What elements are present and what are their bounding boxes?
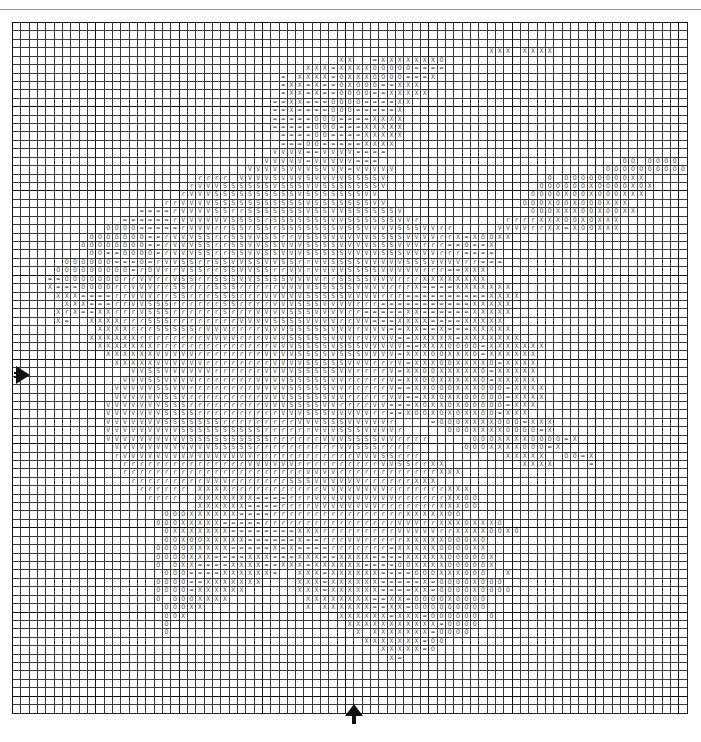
stitch-cell: X (395, 131, 403, 139)
stitch-cell (595, 460, 603, 468)
stitch-cell (570, 317, 578, 325)
stitch-cell: X (337, 64, 345, 72)
stitch-cell (578, 435, 586, 443)
stitch-cell (520, 190, 528, 198)
stitch-cell: = (79, 308, 87, 316)
stitch-cell (287, 670, 295, 678)
stitch-cell (637, 39, 645, 47)
stitch-cell (553, 569, 561, 577)
stitch-cell (62, 670, 70, 678)
stitch-cell: S (328, 224, 336, 232)
stitch-cell (487, 595, 495, 603)
stitch-cell (62, 81, 70, 89)
stitch-cell: = (453, 300, 461, 308)
stitch-cell (645, 696, 653, 704)
stitch-cell (495, 115, 503, 123)
stitch-cell (87, 418, 95, 426)
stitch-cell: X (603, 199, 611, 207)
stitch-cell: r (403, 494, 411, 502)
stitch-cell (29, 670, 37, 678)
stitch-cell: O (120, 233, 128, 241)
stitch-cell: r (337, 519, 345, 527)
stitch-cell: = (403, 292, 411, 300)
stitch-cell (528, 612, 536, 620)
stitch-cell: = (453, 266, 461, 274)
stitch-cell (328, 612, 336, 620)
stitch-cell (29, 148, 37, 156)
stitch-cell (545, 367, 553, 375)
stitch-cell (537, 519, 545, 527)
stitch-cell (645, 645, 653, 653)
stitch-cell (162, 22, 170, 30)
stitch-cell (345, 30, 353, 38)
stitch-cell: r (112, 292, 120, 300)
stitch-cell: = (279, 98, 287, 106)
stitch-cell (129, 140, 137, 148)
stitch-cell (104, 22, 112, 30)
stitch-cell: X (362, 612, 370, 620)
stitch-cell (545, 56, 553, 64)
stitch-cell: O (462, 401, 470, 409)
stitch-cell: X (520, 435, 528, 443)
stitch-cell: = (270, 561, 278, 569)
stitch-cell (553, 39, 561, 47)
stitch-cell (445, 696, 453, 704)
stitch-cell (503, 89, 511, 97)
stitch-cell: = (395, 325, 403, 333)
stitch-cell: X (370, 620, 378, 628)
stitch-cell: X (470, 325, 478, 333)
stitch-cell: X (204, 595, 212, 603)
stitch-cell (295, 595, 303, 603)
stitch-cell: V (179, 376, 187, 384)
stitch-cell (653, 502, 661, 510)
stitch-cell: r (270, 519, 278, 527)
stitch-cell (204, 612, 212, 620)
stitch-cell: r (237, 384, 245, 392)
stitch-cell (653, 292, 661, 300)
stitch-cell: V (262, 317, 270, 325)
stitch-cell: O (62, 275, 70, 283)
stitch-cell: = (162, 216, 170, 224)
stitch-cell (603, 460, 611, 468)
stitch-cell: r (287, 233, 295, 241)
stitch-cell: X (187, 603, 195, 611)
stitch-cell: X (495, 334, 503, 342)
stitch-cell (104, 553, 112, 561)
stitch-cell: X (212, 485, 220, 493)
stitch-cell: = (353, 106, 361, 114)
stitch-cell (503, 519, 511, 527)
stitch-cell: V (220, 325, 228, 333)
stitch-cell: X (537, 460, 545, 468)
stitch-cell: V (303, 418, 311, 426)
stitch-cell: S (378, 216, 386, 224)
stitch-cell (237, 64, 245, 72)
stitch-cell: X (470, 586, 478, 594)
stitch-cell: S (345, 350, 353, 358)
stitch-cell (20, 325, 28, 333)
stitch-cell (670, 216, 678, 224)
stitch-cell (62, 241, 70, 249)
stitch-cell (378, 696, 386, 704)
stitch-cell (112, 157, 120, 165)
stitch-cell (645, 620, 653, 628)
stitch-cell (520, 317, 528, 325)
stitch-cell: V (129, 300, 137, 308)
stitch-cell (229, 595, 237, 603)
stitch-cell (62, 123, 70, 131)
stitch-cell (37, 233, 45, 241)
stitch-cell (578, 704, 586, 712)
stitch-cell (287, 687, 295, 695)
stitch-cell (528, 165, 536, 173)
stitch-cell (662, 485, 670, 493)
stitch-cell (620, 283, 628, 291)
stitch-cell: V (170, 350, 178, 358)
stitch-cell (70, 207, 78, 215)
stitch-cell: O (120, 241, 128, 249)
stitch-cell (220, 81, 228, 89)
stitch-cell (587, 275, 595, 283)
stitch-cell (537, 22, 545, 30)
stitch-cell (503, 670, 511, 678)
stitch-cell (595, 544, 603, 552)
stitch-cell: r (212, 393, 220, 401)
stitch-cell (162, 98, 170, 106)
